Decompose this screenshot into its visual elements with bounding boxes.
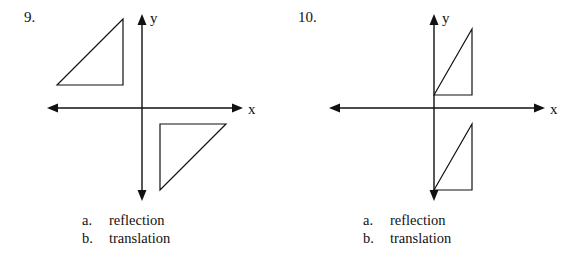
y-axis-down-arrow-icon (430, 190, 439, 201)
option-a: a.reflection (363, 212, 446, 228)
option-text: translation (390, 230, 451, 246)
option-letter: a. (363, 212, 390, 228)
option-a: a.reflection (82, 212, 165, 228)
option-letter: a. (82, 212, 109, 228)
x-axis-left-arrow-icon (329, 104, 340, 113)
x-axis-right-arrow-icon (534, 104, 545, 113)
option-letter: b. (82, 230, 109, 246)
triangle-lower-right (160, 124, 226, 190)
y-axis-down-arrow-icon (138, 190, 147, 201)
option-text: reflection (109, 212, 165, 228)
problem-9: 9. y x a.reflection b.translation (0, 0, 292, 253)
problem-10: 10. y x a.reflection b.translation (292, 0, 584, 253)
option-text: reflection (390, 212, 446, 228)
option-letter: b. (363, 230, 390, 246)
y-axis-label: y (442, 10, 450, 26)
y-axis-label: y (150, 10, 158, 26)
x-axis-label: x (550, 101, 558, 117)
option-b: b.translation (82, 230, 170, 246)
triangle-lower-right (434, 124, 472, 190)
triangle-upper-left (57, 19, 123, 85)
option-b: b.translation (363, 230, 451, 246)
y-axis-up-arrow-icon (430, 14, 439, 25)
y-axis-up-arrow-icon (138, 14, 147, 25)
triangle-upper-right (434, 29, 472, 95)
option-text: translation (109, 230, 170, 246)
x-axis-left-arrow-icon (47, 104, 58, 113)
x-axis-right-arrow-icon (232, 104, 243, 113)
x-axis-label: x (248, 101, 256, 117)
